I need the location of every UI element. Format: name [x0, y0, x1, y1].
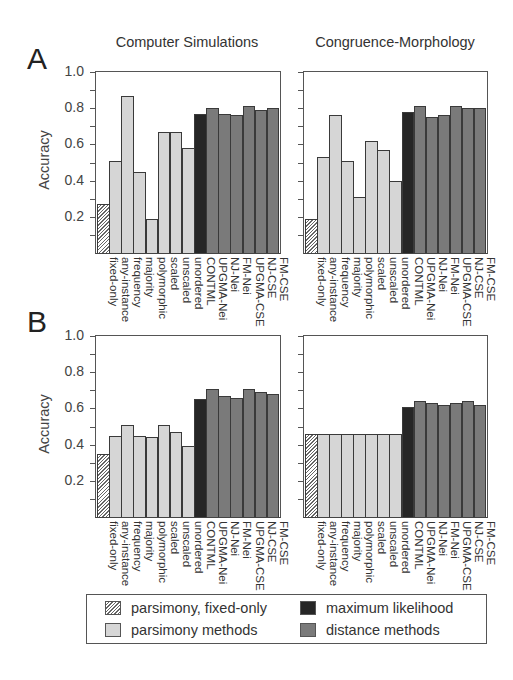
- bar-contml: [402, 112, 415, 253]
- y-tick: [298, 463, 304, 464]
- x-tick-label: FM-Nei: [229, 255, 241, 325]
- bar-any-instance: [109, 436, 122, 517]
- y-tick-label: 0.4: [54, 436, 84, 452]
- x-tick-label: CONTML: [193, 519, 205, 589]
- panel-letter-b: B: [27, 307, 47, 337]
- y-tick: [90, 181, 96, 182]
- bar-nj-cse: [462, 401, 475, 517]
- bar-unscaled: [377, 150, 390, 253]
- bar-contml: [194, 114, 207, 253]
- bar-fm-cse: [474, 108, 487, 253]
- x-labels-a-congruence-morphology: fixed-onlyany-instancefrequencymajorityp…: [304, 255, 488, 325]
- y-tick: [298, 445, 304, 446]
- x-tick-label: NJ-CSE: [461, 519, 473, 589]
- bar-majority: [341, 161, 354, 253]
- x-tick-label: polymorphic: [352, 255, 364, 325]
- x-tick-label: any-instance: [316, 519, 328, 589]
- bar-scaled: [365, 141, 378, 253]
- bar-unordered: [389, 434, 402, 517]
- bar-fm-nei: [438, 405, 451, 517]
- bar-frequency: [121, 425, 134, 517]
- x-tick-label: fixed-only: [96, 255, 108, 325]
- x-tick-label: any-instance: [108, 519, 120, 589]
- column-title-computer-simulations: Computer Simulations: [87, 34, 287, 50]
- y-tick: [298, 235, 304, 236]
- y-tick: [90, 499, 96, 500]
- light-swatch-icon: [105, 623, 121, 637]
- x-tick-label: UPGMA-CSE: [449, 255, 461, 325]
- x-tick-label: unscaled: [169, 255, 181, 325]
- plot-a-congruence-morphology: [303, 71, 488, 254]
- x-tick-label: polymorphic: [145, 255, 157, 325]
- bar-upgma-nei: [206, 389, 219, 518]
- column-title-congruence-morphology: Congruence-Morphology: [295, 34, 495, 50]
- y-tick-label: 0.4: [54, 172, 84, 188]
- y-tick-label: 0.6: [54, 135, 84, 151]
- x-tick-label: unordered: [388, 255, 400, 325]
- bar-fm-cse: [267, 394, 280, 517]
- y-tick: [90, 163, 96, 164]
- y-tick-label: 0.8: [54, 99, 84, 115]
- y-tick: [90, 126, 96, 127]
- x-tick-label: unordered: [181, 255, 193, 325]
- x-tick-label: CONTML: [401, 519, 413, 589]
- bar-any-instance: [317, 434, 330, 517]
- bar-upgma-cse: [243, 389, 256, 518]
- bar-polymorphic: [146, 219, 159, 253]
- y-tick: [298, 199, 304, 200]
- y-tick: [90, 463, 96, 464]
- y-tick: [90, 235, 96, 236]
- x-tick-label: FM-Nei: [437, 519, 449, 589]
- x-tick-label: CONTML: [401, 255, 413, 325]
- x-tick-label: scaled: [364, 519, 376, 589]
- x-tick-label: FM-CSE: [473, 519, 485, 589]
- y-tick: [90, 427, 96, 428]
- y-tick: [90, 445, 96, 446]
- y-axis-label-a: Accuracy: [36, 130, 52, 190]
- y-tick-label: 0.2: [54, 472, 84, 488]
- legend-item-parsimony-methods: parsimony methods: [105, 622, 258, 638]
- bar-nj-nei: [426, 117, 439, 253]
- x-labels-a-computer-simulations: fixed-onlyany-instancefrequencymajorityp…: [96, 255, 281, 325]
- x-tick-label: scaled: [157, 255, 169, 325]
- x-tick-label: NJ-Nei: [425, 519, 437, 589]
- y-tick: [90, 108, 96, 109]
- medium-swatch-icon: [300, 623, 316, 637]
- x-tick-label: CONTML: [193, 255, 205, 325]
- legend: parsimony, fixed-only maximum likelihood…: [86, 594, 487, 644]
- bar-polymorphic: [353, 434, 366, 517]
- x-tick-label: FM-CSE: [473, 255, 485, 325]
- bar-majority: [133, 436, 146, 517]
- x-tick-label: majority: [132, 255, 144, 325]
- y-tick: [90, 72, 96, 73]
- x-tick-label: UPGMA-Nei: [413, 255, 425, 325]
- x-labels-b-computer-simulations: fixed-onlyany-instancefrequencymajorityp…: [96, 519, 281, 589]
- y-tick: [298, 181, 304, 182]
- bar-fm-nei: [230, 115, 243, 253]
- x-tick-label: majority: [132, 519, 144, 589]
- bar-nj-cse: [462, 108, 475, 253]
- bar-any-instance: [317, 157, 330, 253]
- bar-frequency: [329, 434, 342, 517]
- x-tick-label: frequency: [328, 255, 340, 325]
- x-tick-label: unordered: [388, 519, 400, 589]
- bar-nj-nei: [426, 403, 439, 517]
- y-tick: [298, 108, 304, 109]
- legend-item-parsimony-fixed-only: parsimony, fixed-only: [105, 600, 267, 616]
- x-tick-label: scaled: [157, 519, 169, 589]
- x-tick-label: majority: [340, 255, 352, 325]
- x-tick-label: NJ-CSE: [254, 255, 266, 325]
- y-tick: [298, 90, 304, 91]
- bar-any-instance: [109, 161, 122, 253]
- x-tick-label: any-instance: [316, 255, 328, 325]
- x-tick-label: FM-Nei: [229, 519, 241, 589]
- x-tick-label: unscaled: [169, 519, 181, 589]
- y-tick: [298, 408, 304, 409]
- y-tick: [90, 90, 96, 91]
- hatched-swatch-icon: [105, 601, 121, 615]
- y-tick: [298, 163, 304, 164]
- bar-unordered: [182, 148, 195, 253]
- x-tick-label: UPGMA-CSE: [242, 255, 254, 325]
- bar-upgma-nei: [414, 401, 427, 517]
- x-tick-label: unscaled: [376, 255, 388, 325]
